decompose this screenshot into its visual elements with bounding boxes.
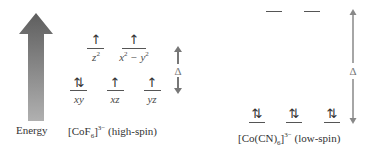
eg-x2y2-electrons: ↑ bbox=[129, 33, 140, 46]
t2g-xz-electrons: ↑ bbox=[110, 76, 121, 89]
eg-x2y2-label: x2 − y2 bbox=[119, 50, 149, 63]
eg-z2-electrons: ↑ bbox=[91, 33, 102, 46]
ls-t2g-level-2 bbox=[286, 122, 302, 123]
eg-z2-label: z2 bbox=[92, 50, 100, 63]
t2g-xy-label: xy bbox=[74, 93, 84, 105]
eg-z2-level bbox=[87, 48, 104, 49]
t2g-xy-level bbox=[70, 90, 87, 91]
energy-arrow-icon bbox=[18, 12, 54, 122]
high-spin-complex-label: [CoF6]3− (high-spin) bbox=[68, 124, 157, 140]
large-delta-label: Δ bbox=[349, 65, 356, 77]
t2g-xz-label: xz bbox=[110, 93, 119, 105]
ls-t2g-2-electrons: ⇅ bbox=[289, 107, 300, 120]
ls-t2g-1-electrons: ⇅ bbox=[252, 107, 263, 120]
energy-axis-label: Energy bbox=[16, 124, 48, 136]
t2g-xy-electrons: ⇅ bbox=[74, 76, 85, 89]
t2g-yz-electrons: ↑ bbox=[147, 76, 158, 89]
ls-t2g-level-1 bbox=[249, 122, 265, 123]
ls-t2g-3-electrons: ⇅ bbox=[327, 107, 338, 120]
ls-t2g-level-3 bbox=[324, 122, 340, 123]
t2g-yz-label: yz bbox=[147, 93, 156, 105]
t2g-xz-level bbox=[107, 90, 124, 91]
ls-eg-level-1 bbox=[266, 11, 282, 12]
small-delta-label: Δ bbox=[174, 65, 181, 77]
low-spin-complex-label: [Co(CN)6]3− (low-spin) bbox=[238, 131, 340, 147]
t2g-yz-level bbox=[144, 90, 161, 91]
eg-x2y2-level bbox=[122, 48, 146, 49]
ls-eg-level-2 bbox=[304, 11, 320, 12]
